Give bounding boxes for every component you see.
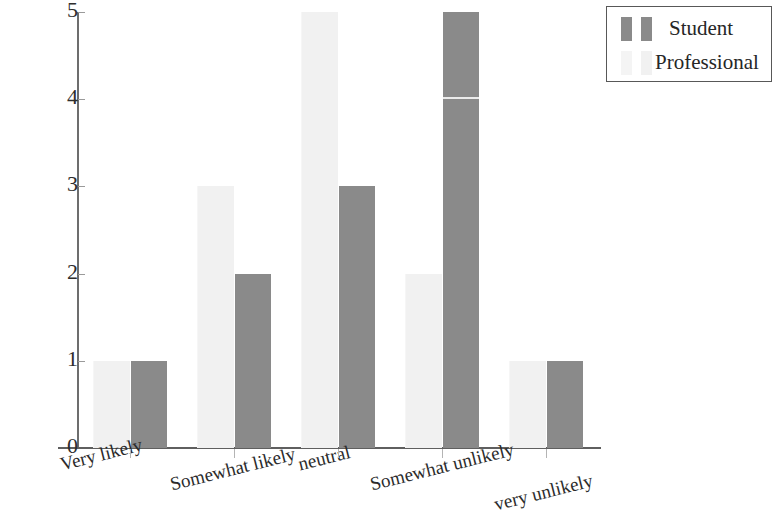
y-axis-tick-mark: [78, 361, 85, 362]
bar-student-very-unlikely: [547, 361, 583, 448]
y-axis-tick-3: 3: [44, 173, 78, 195]
bar-group: [301, 12, 375, 448]
x-axis-label-somewhat-likely: Somewhat likely: [168, 443, 298, 494]
y-axis-tick-4: 4: [44, 86, 78, 108]
bar-student-neutral: [339, 186, 375, 448]
x-axis-tick-mark: [234, 449, 235, 458]
legend-label-student: Student: [669, 14, 733, 42]
legend: Student Professional: [606, 6, 772, 82]
legend-swatch-student-dark: [621, 17, 632, 41]
y-axis-tick-5: 5: [44, 0, 78, 21]
x-axis-tick-mark: [546, 449, 547, 458]
plot-area: [78, 12, 598, 448]
legend-entry-professional: Professional: [607, 45, 771, 79]
x-axis-tick-mark: [338, 449, 339, 458]
bar-seam-artifact: [443, 97, 479, 99]
bar-chart: 012345 Very likelySomewhat likelyneutral…: [0, 0, 778, 530]
x-axis-category-labels: Very likelySomewhat likelyneutralSomewha…: [0, 448, 778, 530]
bar-group: [197, 12, 271, 448]
bar-professional-neutral: [301, 12, 338, 448]
legend-entry-student: Student: [607, 11, 771, 45]
x-axis-tick-mark: [442, 449, 443, 458]
x-axis-tick-mark: [130, 449, 131, 458]
bar-group: [509, 12, 583, 448]
bar-professional-very-unlikely: [509, 361, 546, 448]
y-axis-tick-mark: [78, 274, 85, 275]
bar-professional-very-likely: [93, 361, 130, 448]
bar-student-somewhat-unlikely: [443, 12, 479, 448]
y-axis-tick-mark: [78, 186, 85, 187]
bar-professional-somewhat-unlikely: [405, 274, 442, 448]
bar-professional-somewhat-likely: [197, 186, 234, 448]
x-axis-label-very-unlikely: very unlikely: [492, 470, 595, 515]
legend-label-professional: Professional: [655, 48, 759, 76]
y-axis-tick-mark: [78, 12, 85, 13]
bar-group: [93, 12, 167, 448]
y-axis-tick-mark: [78, 99, 85, 100]
bar-student-somewhat-likely: [235, 274, 271, 448]
bar-group: [405, 12, 479, 448]
legend-swatch-professional-b: [641, 51, 652, 75]
y-axis-tick-1: 1: [44, 348, 78, 370]
legend-swatch-professional-a: [621, 51, 632, 75]
y-axis-tick-2: 2: [44, 261, 78, 283]
legend-swatch-student-light: [641, 17, 652, 41]
